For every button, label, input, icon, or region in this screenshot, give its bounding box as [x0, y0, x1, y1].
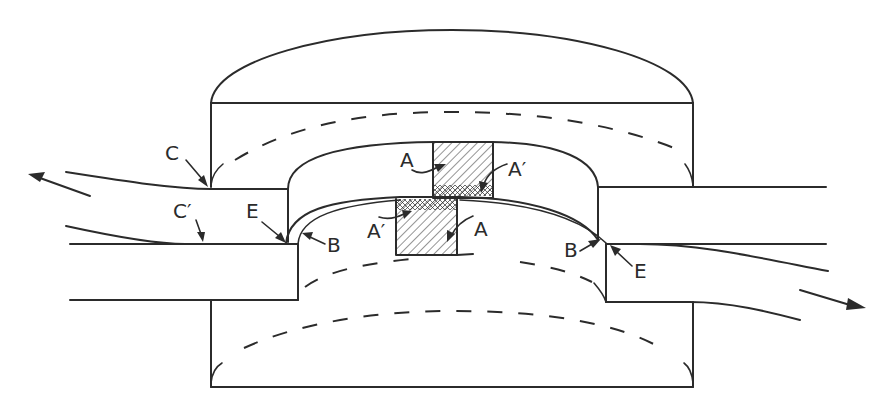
lower-hatched-block [396, 199, 473, 255]
svg-text:A: A [474, 217, 488, 241]
label-B-right: B [564, 238, 601, 262]
lower-dashed-arc [244, 311, 664, 350]
middle-dashed-arc [305, 258, 420, 287]
svg-text:C′: C′ [173, 199, 192, 223]
svg-text:B: B [327, 233, 341, 257]
label-E-left: E [246, 199, 286, 243]
svg-text:A: A [400, 148, 414, 172]
right-channel [594, 187, 828, 320]
svg-text:E: E [634, 259, 647, 283]
lower-housing [211, 300, 693, 387]
label-C-prime: C′ [173, 199, 205, 242]
layer-shear-diagram: C C′ E B A A′ A′ A B [0, 0, 879, 406]
right-outflow-arrow [800, 290, 866, 310]
svg-text:A′: A′ [367, 219, 386, 243]
svg-text:E: E [246, 199, 259, 223]
left-channel [66, 172, 298, 300]
svg-text:C: C [165, 141, 179, 165]
label-C: C [165, 141, 208, 187]
middle-dashed-arc-right [520, 262, 592, 282]
svg-text:B: B [564, 238, 578, 262]
label-B-left: B [302, 232, 341, 257]
svg-text:A′: A′ [508, 157, 527, 181]
upper-dome [211, 30, 693, 103]
label-E-right: E [610, 245, 647, 283]
upper-hatched-block [433, 142, 493, 198]
left-outflow-arrow [28, 172, 90, 196]
